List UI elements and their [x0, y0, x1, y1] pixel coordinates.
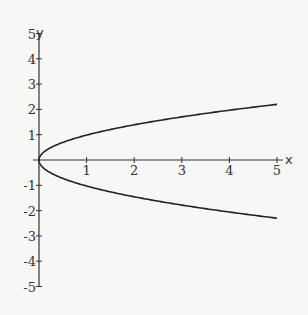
y-tick-label: 2 — [28, 102, 36, 117]
y-tick-label: -1 — [23, 178, 36, 193]
y-tick-label: -3 — [23, 229, 36, 244]
y-tick-label: -4 — [23, 254, 36, 269]
y-tick-label: 5 — [28, 27, 36, 42]
x-tick-label: 2 — [130, 163, 138, 178]
y-tick-label: -5 — [23, 280, 36, 295]
y-tick-label: 1 — [28, 128, 36, 143]
axes — [33, 34, 283, 287]
y-axis-label: y — [36, 25, 44, 40]
chart-container: 1234554321-1-2-3-4-5xy — [0, 0, 308, 315]
x-tick-label: 3 — [178, 163, 186, 178]
x-tick-label: 4 — [225, 163, 233, 178]
y-tick-label: -2 — [23, 204, 36, 219]
y-tick-label: 4 — [28, 52, 36, 67]
upper-curve — [39, 104, 277, 160]
plot-area: 1234554321-1-2-3-4-5xy — [0, 0, 308, 315]
x-tick-label: 1 — [82, 163, 90, 178]
curves — [39, 104, 277, 218]
x-tick-label: 5 — [273, 163, 281, 178]
y-tick-label: 3 — [28, 77, 36, 92]
x-axis-label: x — [285, 152, 293, 167]
lower-curve — [39, 160, 277, 218]
